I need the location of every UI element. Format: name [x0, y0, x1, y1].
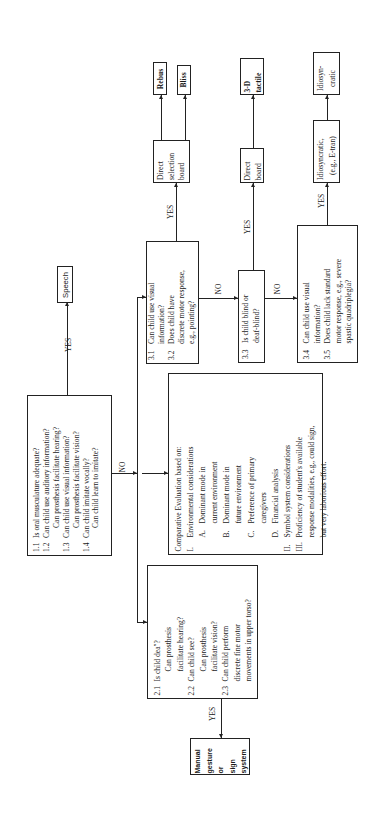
criterion: current environment: [208, 377, 220, 551]
direct-selection-line: Direct: [156, 143, 167, 180]
question-2-3b: discrete fine motor: [231, 569, 242, 695]
outcome-rebus: Rebus: [153, 62, 167, 95]
manual-line: sign: [226, 740, 238, 773]
arrowhead: [159, 95, 163, 99]
box-visual-motor-questions: 3.1Can child use visual information? 3.2…: [146, 241, 199, 364]
question-2-3c: movements in upper torso?: [242, 569, 253, 695]
manual-line: Manual: [191, 740, 203, 773]
box-blind-question: 3.3Is child blind or deaf-blind?: [238, 270, 265, 363]
question-2-2b: Can prosthesis: [197, 569, 208, 695]
question-2-3: 2.3Can child perform: [219, 569, 230, 695]
question-3-1: 3.1Can child use visual: [147, 245, 157, 360]
yes-label: YES: [317, 186, 327, 216]
outcome-direct-selection-board: Direct selection board: [153, 140, 190, 183]
question-3-4b: information?: [312, 229, 323, 359]
outcome-idiosyncratic: Idiosyn- cratic: [313, 52, 340, 95]
idiosyncratic-line: Idiosyn-: [315, 56, 327, 91]
question-3-3b: deaf-blind?: [251, 274, 262, 359]
question-1-1: 1.1Is oral musculature adequate?: [32, 399, 42, 552]
outcome-3d-tactile: 3-D tactile: [240, 58, 264, 95]
question-1-2b: Can prosthesis facilitate hearing?: [52, 399, 62, 552]
yes-label: YES: [208, 699, 218, 729]
question-3-2: 3.2Does child have: [167, 245, 177, 360]
criterion: II.Symbol system considerations: [281, 377, 293, 551]
no-label: NO: [118, 452, 128, 482]
arrowhead: [325, 95, 329, 99]
criterion: but very laborious effort.: [317, 377, 329, 551]
question-1-4b: Can child learn to imitate?: [91, 399, 101, 552]
yes-label: YES: [166, 197, 176, 227]
criterion: C.Preference of primary: [245, 377, 257, 551]
question-2-2: 2.2Can child see?: [185, 569, 196, 695]
criterion: B.Dominant mode in: [220, 377, 232, 551]
direct-board-line: Direct: [241, 151, 252, 180]
question-1-3: 1.3Can child use visual information?: [62, 399, 72, 552]
box-oral-auditory-visual-questions: 1.1Is oral musculature adequate? 1.2Can …: [27, 395, 112, 556]
criterion: future environment: [232, 377, 244, 551]
idiosyncratic-line: cratic: [327, 56, 339, 91]
criterion: response modalities, e.g., could sign,: [305, 377, 317, 551]
question-2-1b: Can prosthesis: [162, 569, 173, 695]
question-3-3: 3.3Is child blind or: [240, 274, 251, 359]
bliss-label: Bliss: [177, 65, 191, 95]
question-3-5: 3.5Does child lack standard: [322, 229, 333, 359]
connector-to-tactile: [253, 95, 254, 148]
arrowhead: [174, 183, 178, 187]
question-3-5c: spastic quadriplegia?: [343, 229, 354, 359]
comparative-title: Comparative Evaluation based on:: [172, 377, 184, 551]
outcome-manual-sign-system: Manual gesture or sign system: [190, 738, 250, 775]
manual-line: gesture: [203, 740, 215, 773]
criterion: I.Environmental considerations: [184, 377, 196, 551]
question-3-5b: motor response, e.g., severe: [333, 229, 344, 359]
no-label: NO: [273, 274, 283, 304]
outcome-bliss: Bliss: [177, 65, 191, 95]
direct-selection-line: selection: [167, 143, 178, 180]
connector-box2-to-manual: [221, 699, 222, 738]
criterion: III.Proficiency of student's available: [293, 377, 305, 551]
arrowhead: [183, 95, 187, 99]
rebus-label: Rebus: [153, 62, 167, 95]
tactile-line: tactile: [252, 61, 263, 92]
criterion: caregivers: [257, 377, 269, 551]
question-2-1c: facilitate hearing?: [174, 569, 185, 695]
outcome-speech: Speech: [57, 266, 73, 303]
speech-label: Speech: [57, 266, 73, 303]
etran-line: Idiosyncratic,: [315, 123, 327, 180]
box-deaf-see-motor-questions: 2.1Is child dea"? Can prosthesis facilit…: [147, 565, 258, 699]
yes-label: YES: [64, 330, 74, 360]
question-3-4: 3.4Can child use visual: [301, 229, 312, 359]
question-1-2: 1.2Can child use auditory information?: [42, 399, 52, 552]
box-visual-motor-lack-questions: 3.4Can child use visual information? 3.5…: [297, 225, 358, 363]
criterion: D.Financial analysis: [269, 377, 281, 551]
etran-line: (e.g., E-tran): [327, 123, 339, 180]
criterion: A.Dominant mode in: [196, 377, 208, 551]
arrowhead: [251, 183, 255, 187]
connector-box31-to-direct-selection: [176, 183, 177, 241]
outcome-idiosyncratic-etran: Idiosyncratic, (e.g., E-tran): [313, 120, 340, 183]
question-3-2c: e.g., pointing?: [187, 245, 197, 360]
box-comparative-evaluation: Comparative Evaluation based on: I.Envir…: [168, 373, 323, 555]
connector-trunk: [137, 297, 138, 623]
question-3-2b: discrete motor response,: [177, 245, 187, 360]
connector-to-rebus: [161, 95, 162, 140]
manual-line: system: [237, 740, 249, 773]
manual-line: or: [214, 740, 226, 773]
connector-to-bliss: [185, 95, 186, 140]
direct-selection-line: board: [177, 143, 188, 180]
question-2-2c: facilitate vision?: [208, 569, 219, 695]
question-1-4: 1.4Can child imitate vocally?: [82, 399, 92, 552]
direct-board-line: board: [252, 151, 263, 180]
outcome-direct-board: Direct board: [240, 148, 264, 183]
connector-box33-to-direct-board: [253, 183, 254, 270]
question-2-1: 2.1Is child dea"?: [151, 569, 162, 695]
yes-label: YES: [243, 212, 253, 242]
no-label: NO: [214, 274, 224, 304]
connector-box34-to-etran: [327, 183, 328, 225]
arrowhead: [251, 95, 255, 99]
tactile-line: 3-D: [241, 61, 252, 92]
question-1-3b: Can prosthesis facilitate vision?: [72, 399, 82, 552]
question-3-1b: information?: [157, 245, 167, 360]
